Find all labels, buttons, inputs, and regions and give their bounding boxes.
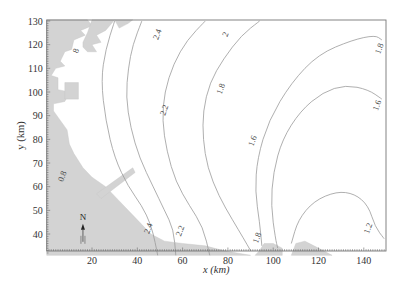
x-axis-title: x (km) xyxy=(202,264,230,276)
contour-lines xyxy=(102,21,384,255)
y-tick-label: 100 xyxy=(28,87,43,98)
x-tick-label: 60 xyxy=(178,255,188,266)
contour-line xyxy=(256,36,382,245)
y-tick-label: 120 xyxy=(28,39,43,50)
contour-label: 2.2 xyxy=(173,224,186,237)
x-tick-label: 100 xyxy=(266,255,281,266)
contour-label: 1.8 xyxy=(214,82,227,95)
y-tick-label: 130 xyxy=(28,16,43,27)
contour-line xyxy=(163,21,210,255)
north-label: N xyxy=(80,212,87,222)
y-tick-label: 80 xyxy=(33,134,43,145)
contour-figure: 80.82.42.42.22.221.81.81.61.81.61.2 N 20… xyxy=(0,0,408,291)
land-mass xyxy=(47,20,332,256)
contour-label: 1.8 xyxy=(373,42,386,55)
x-tick-label: 120 xyxy=(311,255,326,266)
contour-label: 2.4 xyxy=(151,27,164,41)
y-tick-label: 50 xyxy=(33,205,43,216)
land-region xyxy=(115,20,133,28)
land-region xyxy=(65,83,79,100)
y-tick-label: 70 xyxy=(33,158,43,169)
y-tick-label: 60 xyxy=(33,181,43,192)
contour-label: 1.6 xyxy=(246,134,259,147)
y-tick-label: 90 xyxy=(33,110,43,121)
contour-chart: 80.82.42.42.22.221.81.81.61.81.61.2 N 20… xyxy=(0,0,408,291)
contour-label: 1.2 xyxy=(361,222,374,235)
x-tick-label: 140 xyxy=(356,255,371,266)
y-tick-label: 40 xyxy=(33,229,43,240)
x-tick-label: 20 xyxy=(87,255,97,266)
contour-label: 2 xyxy=(220,30,231,37)
x-tick-label: 40 xyxy=(132,255,142,266)
contour-label: 8 xyxy=(70,47,81,54)
land-region xyxy=(97,168,136,199)
y-tick-label: 110 xyxy=(28,63,43,74)
y-axis-title: y (km) xyxy=(15,121,27,150)
contour-label: 2.2 xyxy=(157,103,170,116)
land-region xyxy=(291,241,332,255)
contour-label: 1.6 xyxy=(370,98,383,111)
